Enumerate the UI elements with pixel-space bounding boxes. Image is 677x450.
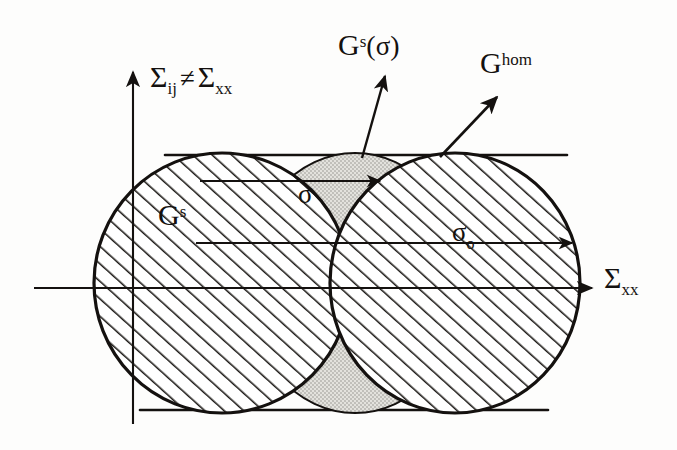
leader-arrow-ghom xyxy=(440,97,497,157)
figure-root: Σij≠Σxx Gs(σ) Ghom Gs σ σo Σxx xyxy=(0,0,677,450)
sigma-glyph: σ xyxy=(298,179,313,209)
label-sigma-o: σo xyxy=(452,219,475,248)
leader-arrow-gs-sigma xyxy=(362,76,385,158)
open-paren: ( xyxy=(366,30,375,61)
hom-superscript: hom xyxy=(502,50,532,69)
not-equal-symbol: ≠ xyxy=(177,63,198,93)
sigma-symbol-2: Σ xyxy=(198,60,215,93)
s-superscript: s xyxy=(360,32,367,51)
o-subscript: o xyxy=(467,235,475,252)
label-gs-of-sigma: Gs(σ) xyxy=(338,30,400,60)
label-gs-inner: Gs xyxy=(158,200,186,230)
s-superscript-inner: s xyxy=(180,202,187,221)
g-letter: G xyxy=(338,28,360,61)
close-paren: ) xyxy=(390,30,399,61)
sigma-symbol: Σ xyxy=(150,60,167,93)
sigma-xx-subscript: xx xyxy=(215,79,232,98)
sigma-symbol-axis: Σ xyxy=(604,261,621,294)
diagram-canvas xyxy=(0,0,677,450)
horizontal-axis-label: Σxx xyxy=(604,263,638,295)
leader-arrows xyxy=(362,76,497,158)
label-sigma-middle: σ xyxy=(298,181,313,208)
sigma-glyph-o: σ xyxy=(452,217,467,247)
vertical-axis-label: Σij≠Σxx xyxy=(150,62,232,94)
right-hatched-ellipse xyxy=(330,153,580,413)
sigma-argument: σ xyxy=(376,31,391,61)
sigma-ij-subscript: ij xyxy=(167,79,176,98)
g-letter-hom: G xyxy=(480,46,502,79)
g-letter-inner: G xyxy=(158,198,180,231)
xx-subscript-axis: xx xyxy=(621,280,638,299)
label-g-hom: Ghom xyxy=(480,48,532,78)
